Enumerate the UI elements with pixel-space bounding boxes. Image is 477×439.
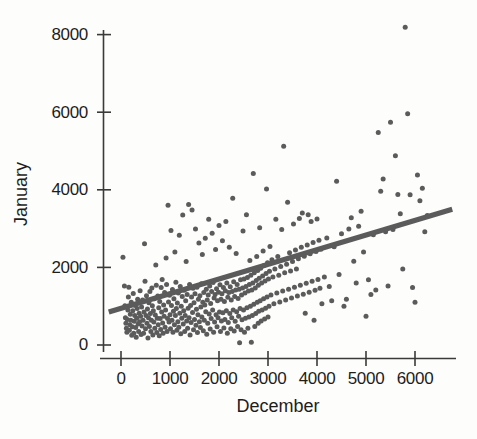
data-point: [254, 254, 259, 259]
data-point: [173, 313, 178, 318]
y-tick-label-4000: 4000: [51, 180, 88, 199]
data-point: [172, 249, 177, 254]
data-point: [188, 332, 193, 337]
data-point: [415, 173, 420, 178]
data-point: [311, 240, 316, 245]
data-point: [266, 277, 271, 282]
data-point: [230, 196, 235, 201]
data-point: [156, 322, 161, 327]
data-point: [376, 130, 381, 135]
data-point: [289, 296, 294, 301]
data-point: [361, 249, 366, 254]
data-point: [251, 171, 256, 176]
data-point: [279, 227, 284, 232]
data-point: [204, 332, 209, 337]
data-point: [339, 231, 344, 236]
data-point: [151, 308, 156, 313]
data-point: [405, 111, 410, 116]
data-point: [386, 284, 391, 289]
data-point: [153, 263, 158, 268]
data-point: [276, 273, 281, 278]
data-point: [210, 308, 215, 313]
data-point: [141, 331, 146, 336]
data-point: [151, 320, 156, 325]
data-point: [303, 311, 308, 316]
x-tick-label-0: 0: [116, 369, 125, 388]
data-point: [221, 325, 226, 330]
data-point: [159, 285, 164, 290]
x-tick-label-1000: 1000: [152, 369, 189, 388]
data-point: [235, 282, 240, 287]
data-point: [233, 319, 238, 324]
data-point: [280, 289, 285, 294]
data-point: [226, 320, 231, 325]
data-point: [134, 335, 139, 340]
data-point: [143, 279, 148, 284]
data-point: [175, 301, 180, 306]
data-point: [291, 221, 296, 226]
data-point: [354, 280, 359, 285]
data-point: [349, 215, 354, 220]
data-point: [173, 280, 178, 285]
data-point: [225, 331, 230, 336]
data-point: [346, 226, 351, 231]
data-point: [234, 251, 239, 256]
data-point: [144, 293, 149, 298]
data-point: [337, 272, 342, 277]
data-point: [413, 300, 418, 305]
data-point: [272, 266, 277, 271]
data-point: [408, 192, 413, 197]
x-axis-title: December: [236, 396, 319, 416]
data-point: [261, 249, 266, 254]
data-point: [156, 305, 161, 310]
data-point: [398, 211, 403, 216]
y-tick-label-2000: 2000: [51, 258, 88, 277]
data-point: [163, 308, 168, 313]
data-point: [186, 202, 191, 207]
data-point: [313, 288, 318, 293]
data-point: [267, 269, 272, 274]
data-point: [150, 303, 155, 308]
data-point: [417, 198, 422, 203]
data-point: [315, 216, 320, 221]
data-point: [341, 304, 346, 309]
data-point: [266, 304, 271, 309]
data-point: [195, 330, 200, 335]
data-point: [292, 285, 297, 290]
data-point: [194, 307, 199, 312]
data-point: [351, 259, 356, 264]
data-point: [295, 294, 300, 299]
data-point: [183, 298, 188, 303]
data-point: [164, 256, 169, 261]
regression-fit-line: [109, 209, 452, 312]
data-point: [222, 299, 227, 304]
data-point: [247, 258, 252, 263]
data-point: [169, 318, 174, 323]
data-point: [205, 321, 210, 326]
data-point: [273, 217, 278, 222]
data-point: [388, 120, 393, 125]
data-point: [185, 326, 190, 331]
data-point: [145, 336, 150, 341]
data-point: [211, 330, 216, 335]
data-point: [293, 247, 298, 252]
data-point: [200, 252, 205, 257]
data-point: [169, 303, 174, 308]
data-point: [364, 314, 369, 319]
data-point: [322, 275, 327, 280]
data-point: [179, 304, 184, 309]
data-point: [277, 299, 282, 304]
scatter-plot-figure: 02000400060008000 0100020003000400050006…: [0, 0, 477, 439]
data-point: [393, 153, 398, 158]
data-point: [312, 318, 317, 323]
data-point: [327, 284, 332, 289]
data-point: [190, 310, 195, 315]
data-point: [180, 213, 185, 218]
data-point: [344, 297, 349, 302]
data-point: [141, 318, 146, 323]
data-point: [307, 290, 312, 295]
data-point: [288, 268, 293, 273]
data-point: [245, 326, 250, 331]
data-point: [298, 283, 303, 288]
data-point: [224, 280, 229, 285]
